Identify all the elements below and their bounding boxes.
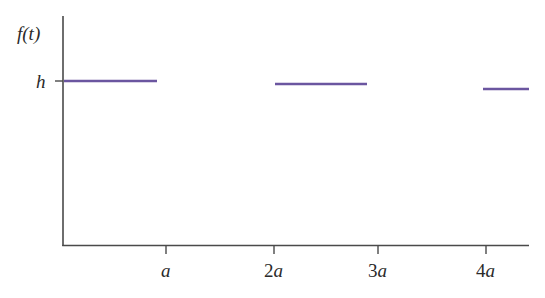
x-tick-label-3a-coef: 3: [368, 260, 378, 281]
x-tick-label-2a-var: a: [274, 260, 284, 281]
x-tick-label-4a-coef: 4: [476, 260, 486, 281]
x-tick-label-2a-coef: 2: [264, 260, 274, 281]
x-tick-label-3a: 3a: [368, 260, 387, 281]
x-tick-label-a: a: [161, 260, 171, 281]
y-axis-label: f(t): [17, 23, 40, 45]
pulse-train-chart: f(t) h a 2a 3a 4a: [0, 0, 545, 298]
x-tick-label-4a-var: a: [486, 260, 496, 281]
x-tick-label-3a-var: a: [378, 260, 388, 281]
x-tick-label-4a: 4a: [476, 260, 495, 281]
y-tick-label-h: h: [36, 71, 46, 92]
x-tick-label-2a: 2a: [264, 260, 283, 281]
